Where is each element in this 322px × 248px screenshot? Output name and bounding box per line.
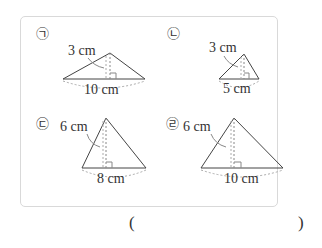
answer-close-paren: )	[298, 213, 304, 233]
height-label-c: 6 cm	[60, 119, 88, 134]
triangles-figure: ㉠ 3 cm 10 cm ㉡ 3 cm 5 cm ㉢ 6 cm 8 cm ㉣ 6…	[0, 0, 322, 248]
base-label-b: 5 cm	[223, 81, 251, 96]
base-label-d: 10 cm	[224, 171, 259, 186]
marker-d: ㉣	[166, 116, 179, 131]
marker-b: ㉡	[167, 26, 180, 41]
marker-a: ㉠	[36, 26, 49, 41]
answer-open-paren: (	[129, 213, 135, 233]
height-label-d: 6 cm	[183, 119, 211, 134]
height-label-a: 3 cm	[68, 43, 96, 58]
triangle-c	[82, 118, 146, 177]
marker-c: ㉢	[36, 116, 49, 131]
triangle-d	[201, 118, 283, 177]
height-label-b: 3 cm	[209, 40, 237, 55]
base-label-a: 10 cm	[84, 82, 119, 97]
base-label-c: 8 cm	[97, 171, 125, 186]
